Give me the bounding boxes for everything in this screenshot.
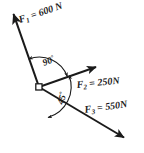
- vector-F2-label-group: F2 = 250N: [75, 74, 121, 92]
- force-vector-diagram: F1 = 600 N F2 = 250N F3 = 550N 90° 45°: [0, 0, 144, 153]
- vector-F1-label: F1 = 600 N: [16, 0, 65, 27]
- vector-F3-label-group: F3 = 550N: [83, 98, 129, 117]
- vector-F1-shaft: [14, 14, 40, 87]
- vector-F3-group: [39, 87, 124, 138]
- vector-F1-label-group: F1 = 600 N: [16, 0, 65, 27]
- vector-diagram-canvas: F1 = 600 N F2 = 250N F3 = 550N 90° 45°: [0, 0, 144, 153]
- vector-F3-label: F3 = 550N: [83, 98, 129, 117]
- vector-F3-shaft: [39, 87, 124, 138]
- vector-F1-group: [14, 14, 40, 87]
- origin-marker: [36, 84, 42, 90]
- vector-F2-label: F2 = 250N: [75, 74, 121, 92]
